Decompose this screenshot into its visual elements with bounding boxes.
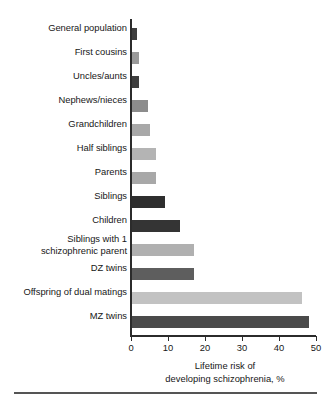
bar-row-siblings-with-1-schizophrenic-parent: Siblings with 1 schizophrenic parent — [0, 238, 329, 262]
bar — [132, 316, 310, 328]
bar-rows: General population First cousins Uncles/… — [0, 22, 329, 334]
bar-row-dz-twins: DZ twins — [0, 262, 329, 286]
bar — [132, 148, 156, 160]
bar — [132, 52, 139, 64]
x-tick-40 — [279, 336, 280, 341]
bar — [132, 268, 195, 280]
footer-divider — [14, 392, 317, 394]
x-tick-label-0: 0 — [116, 342, 146, 354]
category-label: Uncles/aunts — [0, 70, 127, 81]
bar-row-siblings: Siblings — [0, 190, 329, 214]
category-label: MZ twins — [0, 310, 127, 321]
bar-row-first-cousins: First cousins — [0, 46, 329, 70]
x-axis-line — [130, 335, 316, 337]
plot-area: General population First cousins Uncles/… — [0, 0, 329, 340]
x-tick-50 — [316, 336, 317, 341]
x-tick-label-30: 30 — [227, 342, 257, 354]
bar-row-grandchildren: Grandchildren — [0, 118, 329, 142]
bar — [132, 124, 151, 136]
bar-row-half-siblings: Half siblings — [0, 142, 329, 166]
category-label: General population — [0, 22, 127, 33]
bar-row-nephews-nieces: Nephews/nieces — [0, 94, 329, 118]
x-tick-label-20: 20 — [190, 342, 220, 354]
bar-row-general-population: General population — [0, 22, 329, 46]
schizophrenia-risk-bar-chart: General population First cousins Uncles/… — [0, 0, 329, 407]
x-tick-10 — [168, 336, 169, 341]
category-label: First cousins — [0, 46, 127, 57]
bar-row-offspring-of-dual-matings: Offspring of dual matings — [0, 286, 329, 310]
category-label: Siblings with 1 schizophrenic parent — [0, 233, 127, 256]
bar — [132, 76, 139, 88]
bar-row-mz-twins: MZ twins — [0, 310, 329, 334]
x-tick-20 — [205, 336, 206, 341]
bar — [132, 28, 138, 40]
bar-row-uncles-aunts: Uncles/aunts — [0, 70, 329, 94]
category-label: Grandchildren — [0, 118, 127, 129]
x-axis-title: Lifetime risk of developing schizophreni… — [131, 360, 319, 385]
bar — [132, 292, 302, 304]
x-tick-label-50: 50 — [301, 342, 329, 354]
category-label: Children — [0, 214, 127, 225]
x-tick-30 — [242, 336, 243, 341]
category-label: Nephews/nieces — [0, 94, 127, 105]
bar — [132, 172, 156, 184]
bar — [132, 100, 149, 112]
category-label: Half siblings — [0, 142, 127, 153]
category-label: Offspring of dual matings — [0, 286, 127, 297]
bar — [132, 244, 195, 256]
category-label: DZ twins — [0, 262, 127, 273]
bar — [132, 220, 180, 232]
x-tick-0 — [131, 336, 132, 341]
category-label: Siblings — [0, 190, 127, 201]
category-label: Parents — [0, 166, 127, 177]
x-tick-label-10: 10 — [153, 342, 183, 354]
bar — [132, 196, 165, 208]
bar-row-parents: Parents — [0, 166, 329, 190]
x-tick-label-40: 40 — [264, 342, 294, 354]
